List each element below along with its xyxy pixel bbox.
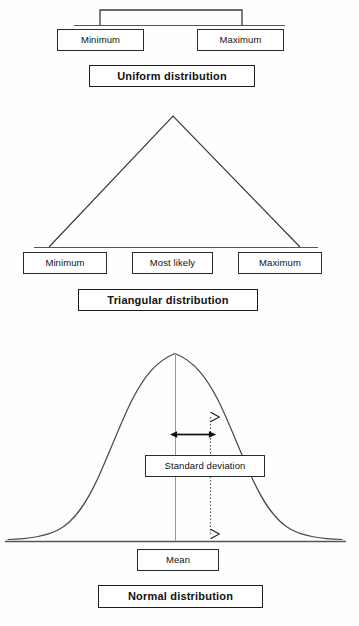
uniform-maximum-label: Maximum xyxy=(197,29,284,51)
triangular-maximum-label: Maximum xyxy=(238,252,322,274)
normal-mean-label: Mean xyxy=(137,549,219,571)
uniform-minimum-label: Minimum xyxy=(57,29,144,51)
triangular-minimum-label: Minimum xyxy=(23,252,107,274)
normal-distribution-chart xyxy=(5,353,346,542)
normal-pdf-curve xyxy=(8,354,342,540)
triangular-pdf-outline xyxy=(49,116,300,247)
uniform-distribution-title: Uniform distribution xyxy=(89,65,255,87)
figure-lines-layer xyxy=(0,0,359,626)
normal-distribution-title: Normal distribution xyxy=(98,585,263,608)
diagram-page: Minimum Maximum Uniform distribution Min… xyxy=(0,0,359,626)
uniform-pdf-plateau xyxy=(100,10,242,25)
uniform-distribution-chart xyxy=(74,10,285,26)
triangular-distribution-chart xyxy=(34,116,318,248)
triangular-distribution-title: Triangular distribution xyxy=(78,289,258,311)
normal-standard-deviation-label: Standard deviation xyxy=(145,455,265,477)
triangular-most-likely-label: Most likely xyxy=(132,252,213,274)
distribution-figures: Minimum Maximum Uniform distribution Min… xyxy=(0,0,359,626)
